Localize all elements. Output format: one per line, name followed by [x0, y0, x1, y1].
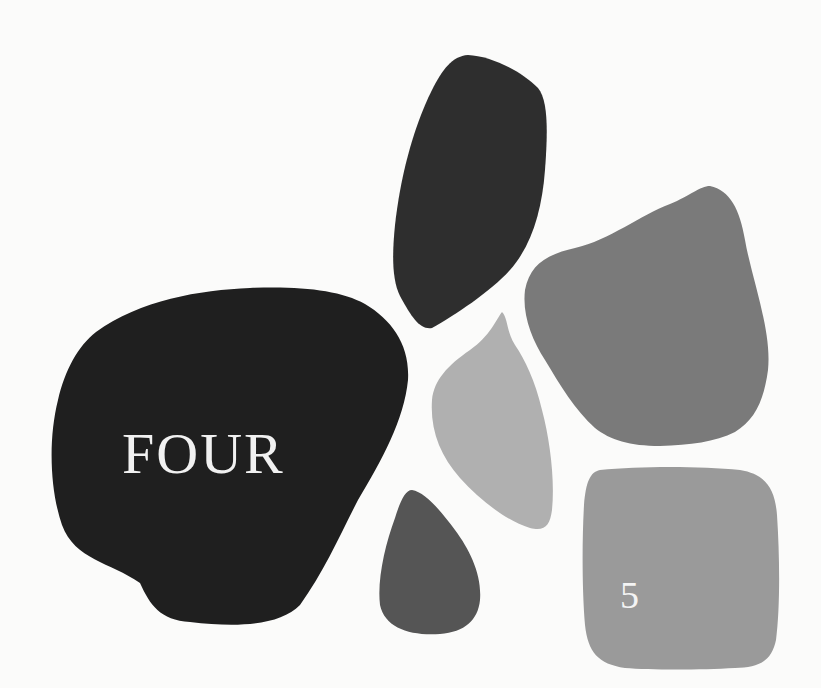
- tall-dark-stone: [393, 55, 547, 328]
- rounded-square-stone: [583, 467, 780, 670]
- medium-gray-stone: [524, 186, 768, 446]
- chapter-opener-page: FOUR 5: [0, 0, 821, 688]
- chapter-title: FOUR: [122, 425, 285, 483]
- small-dark-gray-teardrop: [379, 490, 480, 634]
- page-number: 5: [620, 576, 639, 614]
- light-gray-leaf-stone: [432, 312, 553, 529]
- decorative-stones: [0, 0, 821, 688]
